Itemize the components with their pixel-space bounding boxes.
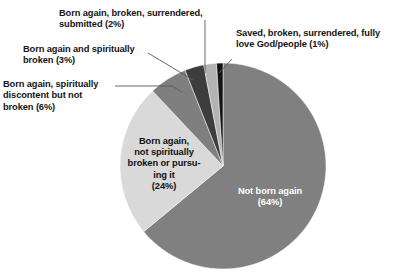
slice-label-born-again-not-broken: Born again, not spiritually broken or pu… [114,136,214,192]
callout-label-saved: Saved, broken, surrendered, fully love G… [236,28,393,51]
callout-label-submitted: Born again, broken, surrendered, submitt… [59,8,254,31]
callout-label-discontent: Born again, spiritually discontent but n… [3,79,138,113]
pie-chart-figure: Born again, broken, surrendered, submitt… [0,0,393,275]
callout-label-spiritually-broken: Born again and spiritually broken (3%) [23,44,183,67]
slice-label-not-born-again: Not born again (64%) [218,186,322,208]
